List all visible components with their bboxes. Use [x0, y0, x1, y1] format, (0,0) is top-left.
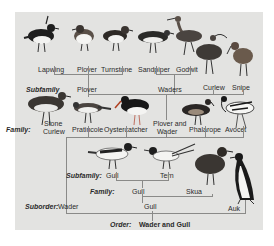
connector: [190, 66, 191, 75]
connector: [88, 94, 89, 97]
connector: [245, 200, 246, 214]
label-plover-and: Plover and: [153, 120, 186, 128]
label-auk: Auk: [228, 205, 240, 213]
connector: [142, 196, 212, 197]
connector: [66, 137, 244, 138]
lapwing-illustration: [22, 14, 60, 54]
label-subfamily-gull: Subfamily:: [66, 172, 102, 180]
connector: [66, 213, 246, 214]
connector: [156, 74, 190, 75]
label-suborder: Suborder:: [25, 203, 58, 211]
connector: [116, 172, 117, 181]
label-order: Order:: [110, 221, 131, 229]
connector: [142, 180, 143, 188]
label-skua: Skua: [186, 188, 202, 196]
label-tern: Tern: [160, 172, 174, 180]
connector: [243, 126, 244, 137]
label-stone: Stone: [44, 120, 62, 128]
connector: [166, 94, 167, 120]
label-curlew-stone: Curlew: [43, 128, 65, 136]
label-plover: Plover: [77, 66, 97, 74]
label-order-value: Wader and Gull: [139, 221, 190, 229]
label-family-gull: Family:: [90, 188, 115, 196]
label-lapwing: Lapwing: [38, 66, 64, 74]
plover-illustration: [70, 24, 100, 52]
auk-illustration: [228, 150, 262, 206]
connector: [212, 194, 213, 197]
label-subfamily-plover: Plover: [77, 86, 97, 94]
connector: [122, 66, 123, 75]
label-subfamily-waders: Waders: [158, 86, 182, 94]
avocet-illustration: [218, 94, 258, 130]
connector: [168, 172, 169, 181]
connector: [88, 126, 89, 137]
snipe-illustration: [227, 38, 259, 78]
oystercatcher-illustration: [115, 94, 157, 126]
pratincole-illustration: [68, 98, 112, 124]
connector: [126, 126, 127, 137]
connector: [142, 194, 143, 203]
label-family: Family:: [6, 126, 31, 134]
label-wader: Wader: [157, 128, 177, 136]
label-snipe: Snipe: [232, 84, 250, 92]
label-suborder-gull: Gull: [144, 203, 156, 211]
label-turnstone: Turnstone: [101, 66, 132, 74]
connector: [156, 66, 157, 75]
connector: [205, 126, 206, 137]
label-godwit: Godwit: [176, 66, 198, 74]
connector: [152, 211, 153, 221]
connector: [166, 134, 167, 137]
curlew-illustration: [193, 30, 229, 75]
label-suborder-wader: Wader: [58, 203, 78, 211]
gull-illustration: [86, 142, 138, 170]
label-sandpiper: Sandpiper: [138, 66, 170, 74]
connector: [54, 66, 55, 75]
connector: [213, 90, 214, 95]
tern-illustration: [142, 142, 196, 170]
turnstone-illustration: [100, 24, 134, 52]
